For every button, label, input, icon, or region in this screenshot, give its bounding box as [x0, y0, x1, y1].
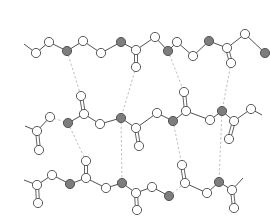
- gray-atom-circle-icon: [214, 177, 223, 186]
- white-atom-circle-icon: [31, 48, 40, 57]
- hydrogen-bond-dashed-line: [219, 111, 222, 182]
- white-atom-circle-icon: [81, 173, 90, 182]
- white-atom-circle-icon: [34, 145, 43, 154]
- white-atom-circle-icon: [226, 58, 235, 67]
- white-atom-circle-icon: [227, 185, 236, 194]
- white-atom-circle-icon: [177, 160, 186, 169]
- white-atom-circle-icon: [180, 178, 189, 187]
- gray-atom-circle-icon: [63, 118, 72, 127]
- white-atom-circle-icon: [188, 51, 197, 60]
- white-atom-circle-icon: [131, 123, 140, 132]
- gray-atom-circle-icon: [116, 113, 125, 122]
- white-atom-circle-icon: [150, 32, 159, 41]
- hydrogen-bond-network-diagram: [0, 0, 270, 223]
- white-atom-circle-icon: [224, 134, 233, 143]
- white-atom-circle-icon: [131, 62, 140, 71]
- white-atom-circle-icon: [147, 182, 156, 191]
- hydrogen-bond-dashed-line: [173, 121, 182, 165]
- white-atom-circle-icon: [76, 91, 85, 100]
- hydrogen-bond-dashed-line: [121, 67, 136, 118]
- white-atom-circle-icon: [229, 203, 238, 212]
- white-atom-circle-icon: [134, 141, 143, 150]
- white-atom-circle-icon: [79, 109, 88, 118]
- white-atom-circle-icon: [229, 116, 238, 125]
- white-atom-circle-icon: [246, 104, 255, 113]
- gray-atom-circle-icon: [117, 178, 126, 187]
- white-atom-circle-icon: [222, 43, 231, 52]
- gray-atom-circle-icon: [217, 106, 226, 115]
- white-atom-circle-icon: [32, 126, 41, 135]
- white-atom-circle-icon: [47, 170, 56, 179]
- white-atom-circle-icon: [179, 87, 188, 96]
- hydrogen-bond-dashed-line: [68, 123, 86, 161]
- gray-atom-circle-icon: [204, 36, 213, 45]
- white-atom-circle-icon: [95, 119, 104, 128]
- gray-atom-circle-icon: [168, 116, 177, 125]
- gray-atom-circle-icon: [163, 46, 172, 55]
- hydrogen-bond-dashed-line: [67, 51, 81, 96]
- white-atom-circle-icon: [240, 29, 249, 38]
- hydrogen-bond-dashed-line: [168, 51, 184, 92]
- white-atom-circle-icon: [181, 106, 190, 115]
- white-atom-circle-icon: [132, 205, 141, 214]
- white-atom-circle-icon: [205, 115, 214, 124]
- gray-atom-circle-icon: [116, 37, 125, 46]
- white-atom-circle-icon: [172, 37, 181, 46]
- white-atom-circle-icon: [202, 188, 211, 197]
- atom-layer: [31, 29, 269, 214]
- white-atom-circle-icon: [152, 108, 161, 117]
- gray-atom-circle-icon: [65, 179, 74, 188]
- gray-atom-circle-icon: [260, 48, 269, 57]
- white-atom-circle-icon: [45, 112, 54, 121]
- gray-atom-circle-icon: [164, 191, 173, 200]
- bottom-chain: [24, 161, 243, 210]
- hydrogen-bond-dashed-line: [222, 63, 231, 111]
- white-atom-circle-icon: [101, 183, 110, 192]
- white-atom-circle-icon: [33, 198, 42, 207]
- white-atom-circle-icon: [81, 156, 90, 165]
- white-atom-circle-icon: [131, 45, 140, 54]
- white-atom-circle-icon: [32, 180, 41, 189]
- hydrogen-bond-dashed-line: [121, 118, 122, 183]
- white-atom-circle-icon: [78, 36, 87, 45]
- hydrogen-bond-layer: [50, 51, 231, 196]
- white-atom-circle-icon: [44, 37, 53, 46]
- gray-atom-circle-icon: [62, 46, 71, 55]
- white-atom-circle-icon: [96, 48, 105, 57]
- white-atom-circle-icon: [131, 188, 140, 197]
